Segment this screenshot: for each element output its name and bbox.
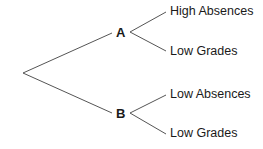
- leaf-a-low-grades: Low Grades: [170, 45, 237, 58]
- edge-a-low-grades: [130, 32, 166, 51]
- leaf-b-low-grades: Low Grades: [170, 127, 237, 140]
- node-a: A: [116, 26, 125, 39]
- node-b: B: [116, 107, 125, 120]
- edge-a-high-absences: [130, 12, 166, 32]
- leaf-b-low-absences: Low Absences: [170, 88, 251, 101]
- tree-diagram: A B High Absences Low Grades Low Absence…: [0, 0, 263, 149]
- edge-b-low-absences: [130, 95, 166, 113]
- leaf-a-high-absences: High Absences: [170, 5, 253, 18]
- edge-b-low-grades: [130, 113, 166, 134]
- edge-root-b: [23, 73, 112, 113]
- edge-root-a: [23, 33, 112, 73]
